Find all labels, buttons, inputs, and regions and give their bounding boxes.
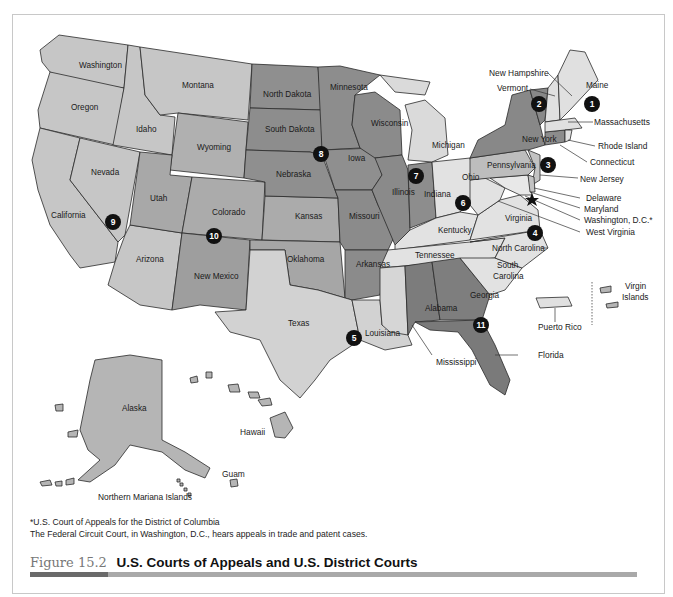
- circuit-marker-11: 11: [473, 317, 489, 333]
- label-alabama: Alabama: [425, 304, 458, 313]
- label-new-hampshire: New Hampshire: [489, 68, 549, 78]
- territory-puerto-rico: [536, 297, 572, 308]
- label-mississippi: Mississippi: [436, 357, 477, 367]
- circuit-marker-10: 10: [206, 228, 222, 244]
- label-florida: Florida: [538, 350, 564, 360]
- label-new-mexico: New Mexico: [194, 272, 239, 281]
- state-guam: [230, 479, 238, 487]
- label-michigan: Michigan: [432, 141, 465, 150]
- label-pennsylvania: Pennsylvania: [487, 161, 536, 170]
- label-utah: Utah: [150, 194, 168, 203]
- svg-text:6: 6: [461, 198, 466, 208]
- label-arkansas: Arkansas: [356, 260, 390, 269]
- svg-text:10: 10: [209, 231, 219, 241]
- label-tennessee: Tennessee: [415, 251, 455, 260]
- state-alaska: [78, 355, 210, 482]
- caption-underline-bar: [30, 572, 637, 577]
- label-california: California: [51, 211, 86, 220]
- footnote-federal-circuit: The Federal Circuit Court, in Washington…: [30, 529, 367, 539]
- territory-virgin-islands: [600, 286, 618, 308]
- label-ohio: Ohio: [462, 173, 480, 182]
- label-missouri: Missouri: [349, 212, 380, 221]
- label-new-jersey: New Jersey: [580, 174, 625, 184]
- label-northern-mariana-islands: Northern Mariana Islands: [98, 492, 192, 502]
- circuit-marker-2: 2: [531, 96, 547, 112]
- label-texas: Texas: [288, 319, 309, 328]
- label-hawaii: Hawaii: [240, 427, 265, 437]
- label-iowa: Iowa: [348, 154, 366, 163]
- circuit-marker-3: 3: [540, 157, 556, 173]
- figure-number: Figure 15.2: [30, 555, 107, 570]
- svg-text:7: 7: [414, 171, 419, 181]
- label-alaska: Alaska: [122, 404, 147, 413]
- circuit-marker-9: 9: [105, 214, 121, 230]
- label-new-york: New York: [522, 135, 557, 144]
- label-massachusetts: Massachusetts: [594, 117, 650, 127]
- svg-text:8: 8: [319, 149, 324, 159]
- label-connecticut: Connecticut: [590, 157, 635, 167]
- label-louisiana: Louisiana: [365, 329, 400, 338]
- label-minnesota: Minnesota: [330, 83, 368, 92]
- caption-underline-accent: [30, 572, 108, 577]
- figure-caption: Figure 15.2 U.S. Courts of Appeals and U…: [30, 555, 418, 570]
- alaska-islands: [40, 404, 78, 486]
- label-colorado: Colorado: [212, 208, 246, 217]
- label-arizona: Arizona: [136, 255, 164, 264]
- circuit-marker-8: 8: [313, 146, 329, 162]
- state-mississippi: [380, 266, 408, 335]
- svg-text:3: 3: [546, 160, 551, 170]
- label-kansas: Kansas: [295, 212, 322, 221]
- label-guam: Guam: [222, 469, 245, 479]
- label-georgia: Georgia: [470, 291, 500, 300]
- footnote-dc-court: *U.S. Court of Appeals for the District …: [30, 517, 220, 527]
- label-idaho: Idaho: [136, 125, 157, 134]
- label-delaware: Delaware: [586, 193, 622, 203]
- svg-text:4: 4: [533, 228, 538, 238]
- label-washington-dc: Washington, D.C.*: [584, 215, 653, 225]
- label-oklahoma: Oklahoma: [287, 255, 325, 264]
- circuit-marker-6: 6: [455, 195, 471, 211]
- label-kentucky: Kentucky: [438, 226, 473, 235]
- svg-text:1: 1: [590, 99, 595, 109]
- circuit-marker-1: 1: [584, 96, 600, 112]
- label-nevada: Nevada: [91, 168, 120, 177]
- label-washington: Washington: [79, 61, 122, 70]
- label-illinois: Illinois: [392, 188, 415, 197]
- label-oregon: Oregon: [71, 103, 99, 112]
- label-virgin-islands-line1: Virgin: [625, 281, 647, 291]
- label-nebraska: Nebraska: [276, 170, 311, 179]
- state-north-dakota: [250, 64, 322, 110]
- label-rhode-island: Rhode Island: [598, 141, 648, 151]
- label-north-dakota: North Dakota: [263, 90, 312, 99]
- svg-text:2: 2: [537, 99, 542, 109]
- label-indiana: Indiana: [424, 190, 451, 199]
- label-vermont: Vermont: [497, 83, 529, 93]
- label-maine: Maine: [586, 81, 609, 90]
- label-virginia: Virginia: [505, 214, 533, 223]
- label-west-virginia: West Virginia: [586, 227, 635, 237]
- label-puerto-rico: Puerto Rico: [538, 322, 582, 332]
- circuit-marker-5: 5: [346, 330, 362, 346]
- label-montana: Montana: [182, 81, 214, 90]
- label-maryland: Maryland: [584, 204, 619, 214]
- label-south-carolina-line2: Carolina: [493, 272, 524, 281]
- label-wisconsin: Wisconsin: [371, 119, 409, 128]
- label-virgin-islands-line2: Islands: [622, 292, 649, 302]
- us-courts-map: Washington Oregon California Idaho Nevad…: [0, 0, 673, 597]
- circuit-marker-4: 4: [527, 225, 543, 241]
- label-south-carolina-line1: South: [497, 261, 519, 270]
- circuit-marker-7: 7: [408, 168, 424, 184]
- svg-text:5: 5: [352, 333, 357, 343]
- label-wyoming: Wyoming: [197, 143, 231, 152]
- figure-title: U.S. Courts of Appeals and U.S. District…: [116, 555, 417, 570]
- svg-text:9: 9: [111, 217, 116, 227]
- label-south-dakota: South Dakota: [265, 125, 315, 134]
- svg-text:11: 11: [477, 320, 486, 330]
- label-north-carolina: North Carolina: [492, 244, 545, 253]
